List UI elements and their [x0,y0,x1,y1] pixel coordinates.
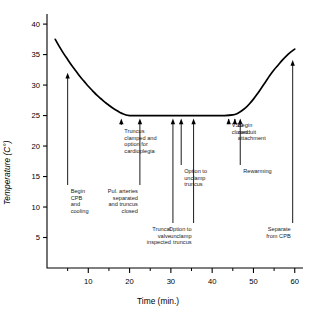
annotation-arrow [226,119,230,125]
x-tick-label: 30 [167,277,175,286]
annotation-label: Truncus clamped and option for cardiople… [124,128,170,154]
chart-canvas: 510152025303540102030405060 [0,0,316,316]
annotation-arrow [171,119,175,223]
temperature-curve [55,39,294,115]
x-tick-label: 60 [291,277,299,286]
x-tick-label: 20 [125,277,133,286]
y-tick-label: 30 [32,81,40,90]
annotation-label: Rewarming [243,168,287,175]
annotation-label: Separate from CPB [251,226,291,239]
annotation-arrow [65,73,69,185]
y-tick-label: 15 [32,172,40,181]
annotation-label: Option to unclamp truncus [184,168,218,188]
annotation-arrow [179,119,183,165]
y-axis-title: Temperature (C°) [2,141,12,205]
x-tick-label: 40 [208,277,216,286]
x-tick-label: 50 [249,277,257,286]
annotation-label: Begin conduit attachment [238,122,282,142]
annotation-label: Pul. arteries separated and truncus clos… [92,188,138,214]
y-tick-label: 25 [32,111,40,120]
annotation-arrow [290,60,294,223]
x-axis-title: Time (min.) [0,296,316,306]
curve-layer [55,39,294,115]
temperature-time-chart: 510152025303540102030405060 Temperature … [0,0,316,316]
annotation-label: Option to unclamp truncus [152,226,192,246]
y-tick-label: 35 [32,50,40,59]
annotation-arrow [119,119,123,125]
y-tick-label: 10 [32,203,40,212]
y-tick-label: 20 [32,142,40,151]
y-tick-label: 40 [32,20,40,29]
y-tick-label: 5 [36,233,40,242]
x-tick-label: 10 [84,277,92,286]
